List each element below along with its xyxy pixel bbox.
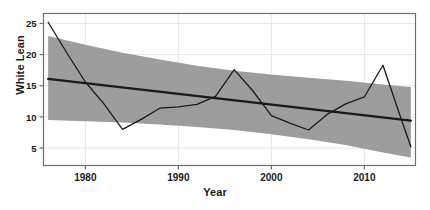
x-tick-label: 2010 <box>353 172 376 183</box>
plot-area: 5101520251980199020002010 <box>0 0 430 210</box>
x-tick-label: 1990 <box>167 172 190 183</box>
x-axis-title: Year <box>0 186 430 198</box>
y-axis-title: White Lean <box>14 0 28 145</box>
white-lean-chart: 5101520251980199020002010 White Lean Yea… <box>0 0 430 210</box>
x-tick-label: 2000 <box>260 172 283 183</box>
y-tick-label: 5 <box>31 143 37 154</box>
x-tick-label: 1980 <box>74 172 97 183</box>
